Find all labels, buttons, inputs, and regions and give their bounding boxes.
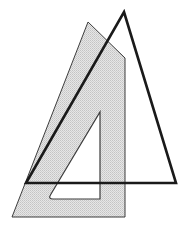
shaded-set-square [12,22,125,217]
shaded-set-square-fill [12,22,125,217]
figure-canvas [0,0,189,230]
